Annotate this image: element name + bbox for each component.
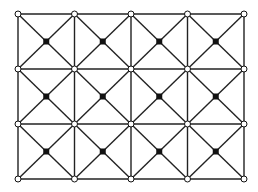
grid-lines (18, 14, 244, 179)
corner-node (241, 176, 247, 182)
center-node (156, 39, 162, 45)
corner-node (15, 66, 21, 72)
center-node (100, 39, 106, 45)
center-node (156, 94, 162, 100)
corner-node (241, 121, 247, 127)
center-node (43, 39, 49, 45)
corner-node (72, 176, 78, 182)
corner-node (185, 121, 191, 127)
corner-node (15, 176, 21, 182)
center-node (156, 149, 162, 155)
corner-node (241, 66, 247, 72)
corner-node (185, 176, 191, 182)
center-node (213, 94, 219, 100)
center-node (213, 39, 219, 45)
corner-node (185, 11, 191, 17)
corner-node (128, 176, 134, 182)
corner-node (72, 121, 78, 127)
corner-node (185, 66, 191, 72)
corner-node (128, 66, 134, 72)
corner-node (15, 121, 21, 127)
center-node (100, 149, 106, 155)
center-node (213, 149, 219, 155)
corner-node (72, 11, 78, 17)
center-node (43, 94, 49, 100)
corner-node (241, 11, 247, 17)
center-node (43, 149, 49, 155)
center-node (100, 94, 106, 100)
corner-node (128, 11, 134, 17)
corner-node (128, 121, 134, 127)
grid-diagram (0, 0, 258, 192)
corner-node (15, 11, 21, 17)
corner-node (72, 66, 78, 72)
